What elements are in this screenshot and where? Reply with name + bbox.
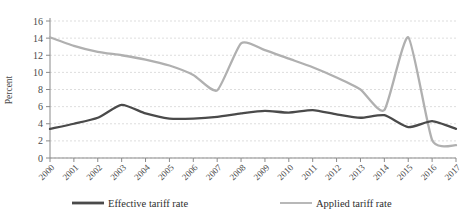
x-tick-label: 2016 bbox=[419, 162, 439, 182]
y-tick-label: 0 bbox=[38, 153, 43, 164]
x-tick-label: 2005 bbox=[156, 162, 176, 182]
x-tick-label: 2006 bbox=[180, 162, 200, 182]
axis-lines bbox=[50, 18, 456, 158]
data-series bbox=[50, 37, 456, 146]
x-tick-label: 2004 bbox=[132, 162, 152, 182]
x-tick-label: 2013 bbox=[347, 162, 367, 182]
legend-label: Applied tariff rate bbox=[316, 198, 392, 209]
x-tick-label: 2017 bbox=[443, 162, 463, 182]
x-tick-label: 2003 bbox=[108, 162, 128, 182]
y-axis-title: Percent bbox=[4, 75, 14, 104]
y-tick-label: 16 bbox=[33, 16, 43, 27]
y-tick-label: 6 bbox=[38, 101, 43, 112]
x-tick-marks bbox=[50, 158, 456, 162]
x-tick-label: 2001 bbox=[60, 162, 80, 182]
x-tick-label: 2010 bbox=[275, 162, 295, 182]
legend-label: Effective tariff rate bbox=[108, 198, 188, 209]
x-tick-label: 2008 bbox=[228, 162, 248, 182]
y-tick-label: 10 bbox=[33, 67, 43, 78]
gridlines bbox=[50, 21, 456, 158]
line-chart: 0246810121416 20002001200220032004200520… bbox=[0, 0, 466, 216]
x-tick-label: 2007 bbox=[204, 162, 224, 182]
x-tick-label: 2015 bbox=[395, 162, 415, 182]
chart-figure: 0246810121416 20002001200220032004200520… bbox=[0, 0, 466, 216]
y-tick-marks bbox=[46, 21, 50, 158]
y-tick-labels: 0246810121416 bbox=[33, 16, 43, 164]
y-tick-label: 2 bbox=[38, 135, 43, 146]
chart-legend: Effective tariff rateApplied tariff rate bbox=[72, 198, 392, 209]
x-tick-label: 2014 bbox=[371, 162, 391, 182]
y-tick-label: 14 bbox=[33, 33, 43, 44]
series-line-applied-tariff-rate bbox=[50, 37, 456, 146]
y-tick-label: 4 bbox=[38, 118, 43, 129]
x-tick-labels: 2000200120022003200420052006200720082009… bbox=[37, 162, 463, 182]
x-tick-label: 2011 bbox=[300, 162, 320, 182]
series-line-effective-tariff-rate bbox=[50, 105, 456, 129]
x-tick-label: 2009 bbox=[252, 162, 272, 182]
x-tick-label: 2002 bbox=[84, 162, 104, 182]
x-tick-label: 2000 bbox=[37, 162, 57, 182]
y-tick-label: 12 bbox=[33, 50, 43, 61]
x-tick-label: 2012 bbox=[323, 162, 343, 182]
y-tick-label: 8 bbox=[38, 84, 43, 95]
